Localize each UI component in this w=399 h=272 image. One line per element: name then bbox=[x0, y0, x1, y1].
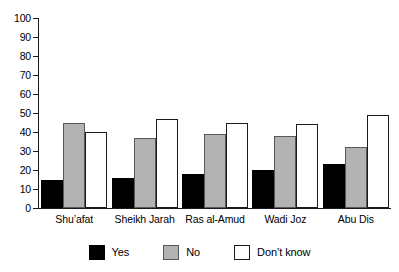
black-filled-square-icon bbox=[89, 245, 105, 260]
bar-dontknow bbox=[226, 123, 248, 209]
bar-dontknow bbox=[367, 115, 389, 208]
y-axis-tick-label-wrap: 60 bbox=[0, 89, 31, 99]
x-axis-category-label: Ras al-Amud bbox=[180, 212, 250, 228]
y-axis-tick-label: 40 bbox=[1, 127, 31, 137]
bar-group bbox=[39, 18, 109, 208]
y-axis-tick-label-wrap: 10 bbox=[0, 184, 31, 194]
legend-item-label: No bbox=[186, 246, 200, 258]
x-axis-line bbox=[38, 208, 391, 209]
x-axis-category-label: Wadi Joz bbox=[250, 212, 320, 228]
y-axis-tick-label-wrap: 100 bbox=[0, 13, 31, 23]
y-axis-tick bbox=[33, 113, 38, 114]
y-axis-tick bbox=[33, 170, 38, 171]
bar-yes bbox=[182, 174, 204, 208]
gray-filled-square-icon bbox=[163, 245, 179, 260]
y-axis-tick-label: 100 bbox=[1, 13, 31, 23]
chart-legend: YesNoDon’t know bbox=[0, 241, 399, 263]
y-axis-tick bbox=[33, 56, 38, 57]
bar-no bbox=[204, 134, 226, 208]
x-axis-category-label: Abu Dis bbox=[321, 212, 391, 228]
bar-no bbox=[63, 123, 85, 209]
bar-no bbox=[274, 136, 296, 208]
y-axis-tick-label-wrap: 90 bbox=[0, 32, 31, 42]
y-axis-tick bbox=[33, 37, 38, 38]
white-outlined-square-icon bbox=[234, 245, 250, 260]
legend-item: No bbox=[163, 245, 200, 260]
y-axis-tick-label-wrap: 50 bbox=[0, 108, 31, 118]
legend-item-label: Don’t know bbox=[257, 246, 310, 258]
bar-group bbox=[109, 18, 179, 208]
y-axis-tick-label: 20 bbox=[1, 165, 31, 175]
y-axis-tick-label: 30 bbox=[1, 146, 31, 156]
bar-yes bbox=[112, 178, 134, 208]
bar-dontknow bbox=[85, 132, 107, 208]
y-axis-tick bbox=[33, 208, 38, 209]
bar-yes bbox=[41, 180, 63, 209]
y-axis-tick-label-wrap: 30 bbox=[0, 146, 31, 156]
x-axis-category-label: Sheikh Jarah bbox=[109, 212, 179, 228]
bar-yes bbox=[252, 170, 274, 208]
bar-groups bbox=[39, 18, 391, 208]
legend-item-label: Yes bbox=[112, 246, 130, 258]
bar-no bbox=[134, 138, 156, 208]
y-axis-tick bbox=[33, 94, 38, 95]
y-axis-tick-label: 90 bbox=[1, 32, 31, 42]
y-axis-tick-label-wrap: 20 bbox=[0, 165, 31, 175]
bar-group bbox=[250, 18, 320, 208]
y-axis-tick-label-wrap: 0 bbox=[0, 203, 31, 213]
y-axis-tick-label: 70 bbox=[1, 70, 31, 80]
bar-chart: 0102030405060708090100 Shu’afatSheikh Ja… bbox=[0, 0, 399, 272]
bar-dontknow bbox=[296, 124, 318, 208]
x-axis-labels: Shu’afatSheikh JarahRas al-AmudWadi JozA… bbox=[39, 212, 391, 228]
y-axis-tick bbox=[33, 132, 38, 133]
y-axis-tick bbox=[33, 189, 38, 190]
y-axis-tick bbox=[33, 18, 38, 19]
y-axis-tick-label: 60 bbox=[1, 89, 31, 99]
y-axis-tick bbox=[33, 75, 38, 76]
y-axis-tick-label: 80 bbox=[1, 51, 31, 61]
y-axis-tick-label: 10 bbox=[1, 184, 31, 194]
y-axis-tick-label-wrap: 70 bbox=[0, 70, 31, 80]
bar-group bbox=[321, 18, 391, 208]
y-axis-tick-label-wrap: 40 bbox=[0, 127, 31, 137]
legend-item: Yes bbox=[89, 245, 130, 260]
bar-no bbox=[345, 147, 367, 208]
x-axis-category-label: Shu’afat bbox=[39, 212, 109, 228]
y-axis-tick-label: 50 bbox=[1, 108, 31, 118]
y-axis-tick-label-wrap: 80 bbox=[0, 51, 31, 61]
bar-yes bbox=[323, 164, 345, 208]
legend-item: Don’t know bbox=[234, 245, 310, 260]
bar-dontknow bbox=[156, 119, 178, 208]
y-axis-tick bbox=[33, 151, 38, 152]
bar-group bbox=[180, 18, 250, 208]
y-axis-tick-label: 0 bbox=[1, 203, 31, 213]
